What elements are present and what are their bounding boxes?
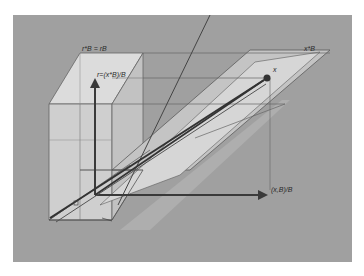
label-top-right: x*B <box>303 45 315 52</box>
label-horizontal-axis: (x,B)/B <box>271 186 293 194</box>
label-point-x: x <box>272 66 277 73</box>
point-x-marker <box>264 75 271 82</box>
diagram-canvas: r*B = rB r=(x*B)/B x*B x (x,B)/B <box>0 0 364 276</box>
label-box-top: r*B = rB <box>82 45 107 52</box>
label-vertical-axis: r=(x*B)/B <box>97 71 126 79</box>
